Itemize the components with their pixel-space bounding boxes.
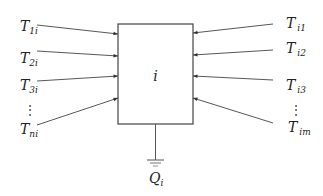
label-qi: Qi [149,170,163,188]
right-labels: Ti1 Ti2 Ti3 ⋮ Tim [286,15,311,137]
arrow-t3i [37,76,118,81]
arrow-tim [193,98,273,123]
arrow-t1i [37,25,118,34]
label-t3i: T3i [20,77,38,95]
left-ellipsis: ⋮ [24,103,36,117]
label-t1i: T1i [20,18,38,36]
left-arrows [37,25,118,125]
label-ti1: Ti1 [286,15,306,33]
label-ti2: Ti2 [286,40,306,58]
label-t2i: T2i [20,50,38,68]
arrow-ti3 [193,76,273,80]
label-tni: Tni [20,121,38,139]
label-tim: Tim [288,119,311,137]
ground-symbol [147,124,164,166]
label-ti3: Ti3 [286,77,306,95]
heat-flow-diagram: i T1i T2i T3i ⋮ Tni Ti1 Ti2 Ti3 ⋮ Tim Qi [0,0,323,196]
arrow-tni [37,98,118,125]
arrow-t2i [37,51,118,56]
right-ellipsis: ⋮ [290,103,302,117]
node-label: i [153,68,157,84]
right-arrows [193,24,273,123]
left-labels: T1i T2i T3i ⋮ Tni [20,18,38,139]
arrow-ti1 [193,24,273,33]
arrow-ti2 [193,50,273,55]
